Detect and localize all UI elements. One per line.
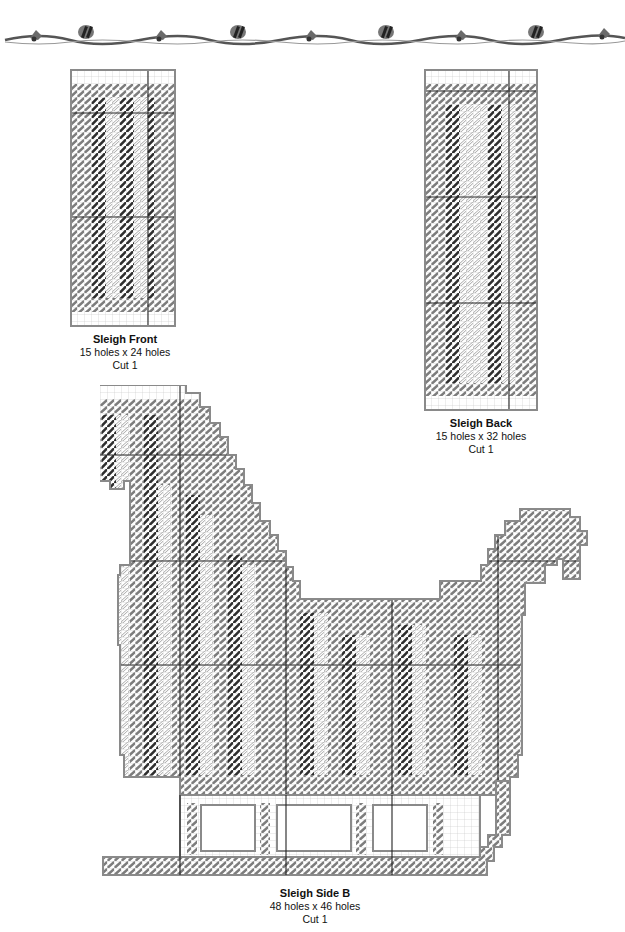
sleigh-side-b-cut: Cut 1: [250, 913, 380, 926]
sleigh-front-size: 15 holes x 24 holes: [60, 346, 190, 359]
sleigh-side-b-size: 48 holes x 46 holes: [250, 900, 380, 913]
sleigh-runner: [103, 781, 510, 875]
sleigh-side-b-chart: [100, 385, 590, 885]
sleigh-side-b-caption: Sleigh Side B 48 holes x 46 holes Cut 1: [250, 887, 380, 926]
sleigh-back-chart: [424, 69, 538, 411]
sleigh-front-chart: [70, 69, 176, 327]
sleigh-side-b-title: Sleigh Side B: [250, 887, 380, 900]
sleigh-front-title: Sleigh Front: [60, 333, 190, 346]
holly-vine-border: [0, 18, 625, 48]
sleigh-front-cut: Cut 1: [60, 359, 190, 372]
sleigh-front-caption: Sleigh Front 15 holes x 24 holes Cut 1: [60, 333, 190, 372]
